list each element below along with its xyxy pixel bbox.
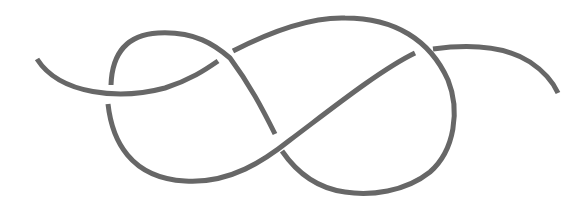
- strand-upper-right-loop: [233, 18, 454, 193]
- strand-upper-left-loop: [111, 33, 275, 134]
- strand-lower-center: [108, 53, 415, 181]
- strand-left-tail: [37, 59, 218, 94]
- knot-diagram: [0, 0, 586, 211]
- knot-strands: [37, 18, 558, 193]
